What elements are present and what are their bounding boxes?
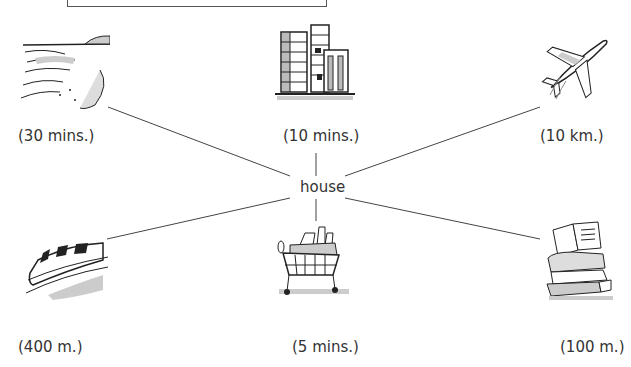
shopping-cart-icon: [275, 225, 355, 307]
distance-beach: (30 mins.): [18, 127, 94, 145]
line-station: [107, 198, 290, 239]
line-library: [345, 198, 540, 239]
train-icon: [18, 235, 108, 305]
beach-icon: [15, 30, 110, 110]
airplane-icon: [538, 25, 618, 105]
line-airport: [345, 107, 540, 176]
distance-city: (10 mins.): [283, 127, 359, 145]
distance-station: (400 m.): [18, 338, 82, 356]
distance-library: (100 m.): [560, 338, 624, 356]
distance-supermarket: (5 mins.): [292, 338, 359, 356]
house-node: house: [300, 178, 345, 196]
city-buildings-icon: [275, 22, 355, 102]
books-icon: [543, 220, 623, 305]
line-beach: [108, 107, 290, 176]
distance-airport: (10 km.): [540, 127, 604, 145]
